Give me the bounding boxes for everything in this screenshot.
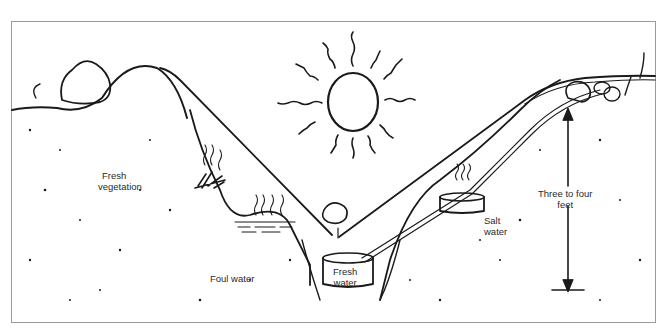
label-salt-water: Salt water — [484, 215, 507, 237]
label-line: Fresh — [333, 266, 357, 277]
label-line: vegetation — [98, 181, 142, 192]
foul-water-pool — [235, 195, 295, 232]
center-rock-weight — [323, 203, 347, 223]
label-line: water — [484, 226, 507, 237]
label-line: water — [333, 277, 357, 288]
label-fresh-water: Fresh water — [333, 266, 357, 288]
ground-left — [12, 66, 187, 118]
pit-wall-left — [190, 110, 310, 285]
sun-icon — [278, 32, 415, 158]
label-line: feet — [538, 199, 592, 210]
label-fresh-vegetation: Fresh vegetation — [98, 170, 142, 192]
label-line: Fresh — [98, 170, 142, 181]
label-depth: Three to four feet — [538, 188, 592, 210]
drinking-tube — [362, 90, 600, 258]
label-foul-water: Foul water — [210, 273, 254, 284]
label-line: Salt — [484, 215, 507, 226]
label-line: Three to four — [538, 188, 592, 199]
